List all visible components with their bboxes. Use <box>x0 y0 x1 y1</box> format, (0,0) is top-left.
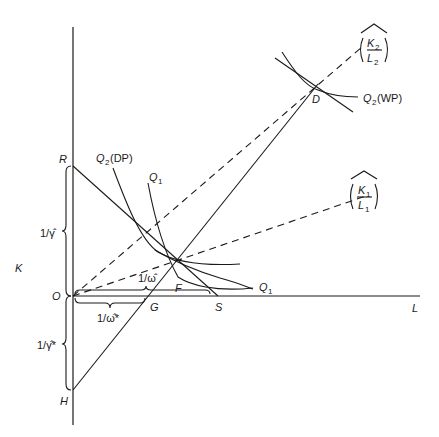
origin-label: O <box>52 290 61 302</box>
ray-k2-l2 <box>73 47 362 296</box>
label-ray-k1-l1: K 1 L 1 <box>351 171 378 214</box>
label-omega: 1/ω̂ <box>138 272 158 284</box>
axis-label-k: K <box>15 262 23 274</box>
isoquant-q1 <box>148 183 253 289</box>
svg-text:Q: Q <box>96 152 105 164</box>
svg-text:L: L <box>367 52 373 64</box>
svg-text:2: 2 <box>374 58 379 67</box>
svg-text:L: L <box>358 199 364 211</box>
isoquant-q2-dp <box>113 168 240 265</box>
point-label-h: H <box>60 395 68 407</box>
svg-text:1: 1 <box>365 205 370 214</box>
svg-text:Q: Q <box>363 92 372 104</box>
label-q1-right: Q 1 <box>259 281 273 296</box>
point-label-s: S <box>215 301 223 313</box>
axis-label-l: L <box>412 302 418 314</box>
brace-omega <box>75 286 210 294</box>
svg-text:Q: Q <box>149 171 158 183</box>
svg-text:(WP): (WP) <box>377 92 402 104</box>
isoquant-q2-wp <box>282 52 358 97</box>
point-label-r: R <box>59 153 67 165</box>
brace-omega-star <box>75 298 145 308</box>
svg-text:1: 1 <box>268 287 273 296</box>
label-gamma-star: 1/γ̂* <box>37 339 57 351</box>
svg-text:2: 2 <box>375 43 380 52</box>
ray-k1-l1 <box>73 196 366 296</box>
label-q2-wp: Q 2 (WP) <box>363 92 402 107</box>
label-gamma: 1/γ̂ <box>40 227 57 239</box>
svg-text:K: K <box>358 184 366 196</box>
svg-text:1: 1 <box>158 177 163 186</box>
svg-text:K: K <box>367 37 375 49</box>
svg-text:Q: Q <box>259 281 268 293</box>
label-ray-k2-l2: K 2 L 2 <box>361 24 388 67</box>
point-label-d: D <box>312 93 320 105</box>
label-omega-star: 1/ω̂* <box>97 312 120 324</box>
brace-gamma <box>62 166 71 296</box>
label-q2-dp: Q 2 (DP) <box>96 152 133 167</box>
point-label-f: F <box>175 282 183 294</box>
budget-line-hd <box>73 84 318 390</box>
brace-gamma-star <box>62 296 71 390</box>
svg-text:1: 1 <box>366 190 371 199</box>
label-q1-top: Q 1 <box>149 171 163 186</box>
isoquant-diagram: K L O R H S G F D Q 2 (DP) Q 1 Q 1 Q 2 (… <box>0 0 439 437</box>
point-label-g: G <box>150 301 159 313</box>
svg-text:(DP): (DP) <box>110 152 133 164</box>
